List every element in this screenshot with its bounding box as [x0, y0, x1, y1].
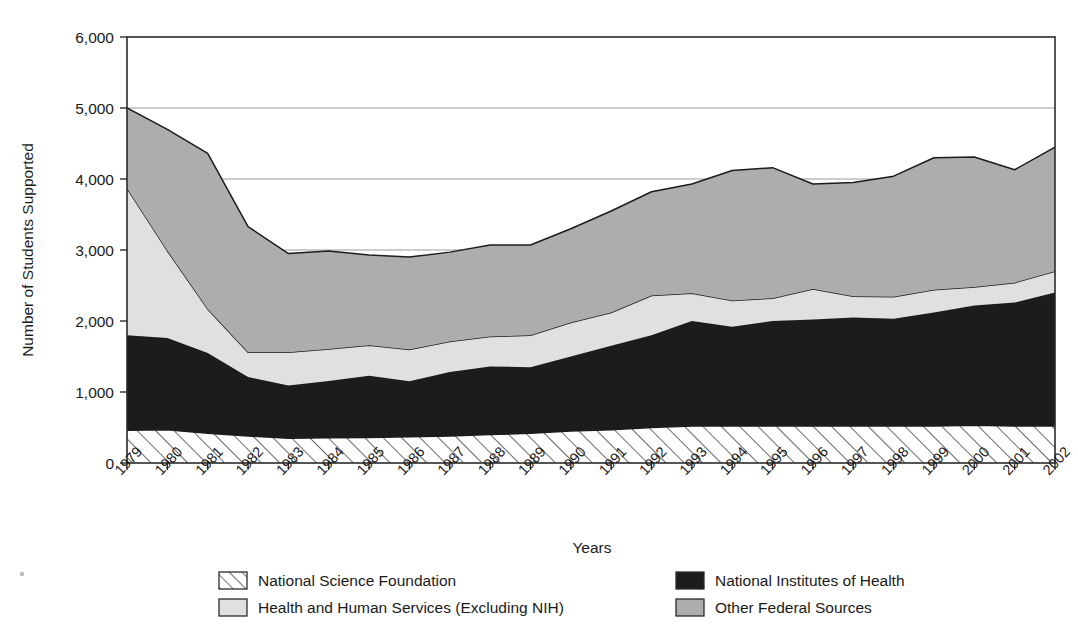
legend-swatch-light-gray-swatch	[219, 599, 247, 616]
figure-container: 01,0002,0003,0004,0005,0006,000 19791980…	[0, 0, 1078, 624]
stacked-area-chart: 01,0002,0003,0004,0005,0006,000 19791980…	[0, 0, 1078, 624]
y-tick-label: 2,000	[75, 313, 114, 330]
y-axis: 01,0002,0003,0004,0005,0006,000	[75, 29, 127, 472]
legend-item: National Science Foundation	[219, 572, 456, 589]
y-tick-label: 4,000	[75, 171, 114, 188]
legend-label: National Institutes of Health	[715, 572, 905, 589]
legend-swatch-hatch-swatch	[219, 572, 247, 589]
y-tick-label: 1,000	[75, 384, 114, 401]
legend-item: Other Federal Sources	[676, 599, 872, 616]
x-axis-title: Years	[572, 539, 611, 556]
legend-swatch-mid-gray-swatch	[676, 599, 704, 616]
legend-label: National Science Foundation	[258, 572, 456, 589]
chart-legend: National Science FoundationNational Inst…	[219, 572, 905, 616]
legend-swatch-black-swatch	[676, 572, 704, 589]
y-axis-title: Number of Students Supported	[19, 143, 36, 357]
y-tick-label: 3,000	[75, 242, 114, 259]
legend-item: National Institutes of Health	[676, 572, 905, 589]
legend-item: Health and Human Services (Excluding NIH…	[219, 599, 564, 616]
legend-label: Other Federal Sources	[715, 599, 872, 616]
y-tick-label: 5,000	[75, 100, 114, 117]
scan-artifact	[20, 572, 24, 576]
legend-label: Health and Human Services (Excluding NIH…	[258, 599, 564, 616]
y-tick-label: 6,000	[75, 29, 114, 46]
